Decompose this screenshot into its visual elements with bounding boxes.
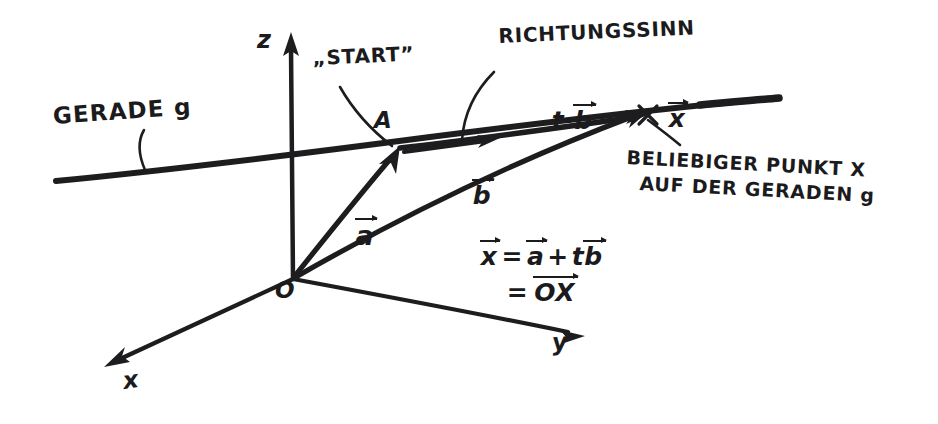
scalar-t-text: t· — [552, 106, 574, 135]
formula-term-b: b — [584, 242, 602, 270]
formula-eq-2: = — [507, 278, 528, 307]
vector-a-text: a — [356, 220, 375, 250]
vector-b-text-2: b — [574, 106, 592, 134]
label-vector-tb: t·b — [515, 80, 593, 161]
point-label-a: A — [374, 108, 392, 132]
axis-label-z: z — [257, 28, 271, 53]
formula-term-ox: OX — [534, 278, 575, 306]
gerade-g-pointer — [140, 130, 145, 170]
formula-line-2: =OX — [470, 252, 575, 333]
axis-label-y: y — [551, 329, 569, 355]
label-vector-a: a — [316, 192, 374, 279]
origin-label-o: O — [275, 278, 295, 302]
label-start: „START” — [312, 44, 415, 69]
axis-label-x: x — [121, 367, 140, 394]
x-axis-stroke — [104, 279, 293, 367]
diagram-canvas: GERADE g z x y O A „START” RICHTUNGSSINN… — [0, 0, 938, 424]
vector-x-text: x — [669, 104, 686, 132]
vector-b-text: b — [473, 181, 491, 209]
